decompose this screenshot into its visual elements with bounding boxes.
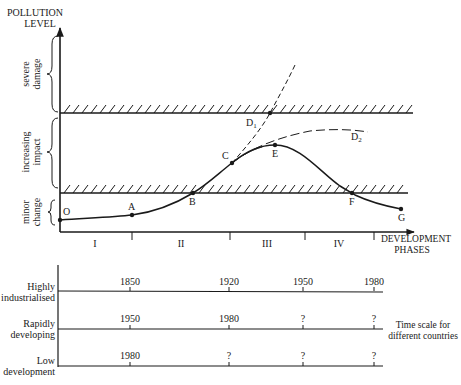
zone-minor-line1: minor bbox=[20, 199, 31, 224]
row-label-low-2: development bbox=[3, 366, 55, 377]
d1-dashed-branch bbox=[232, 65, 295, 163]
point-label-g: G bbox=[398, 212, 405, 223]
year-label: 1980 bbox=[364, 276, 384, 287]
year-label: 1920 bbox=[219, 276, 239, 287]
row-label-highly-2: industrialised bbox=[1, 292, 55, 303]
upper-threshold bbox=[60, 105, 413, 113]
zone-severe-line2: damage bbox=[31, 58, 42, 90]
point-label-a: A bbox=[128, 201, 136, 212]
point-label-f: F bbox=[349, 196, 355, 207]
point-label-c: C bbox=[222, 150, 229, 161]
year-label: 1950 bbox=[120, 313, 140, 324]
x-axis-title-line1: DEVELOPMENT bbox=[381, 234, 451, 244]
point-label-d2: D2 bbox=[351, 131, 362, 144]
lower-threshold bbox=[60, 185, 408, 193]
timescale-caption-line1: Time scale for bbox=[396, 320, 451, 330]
timescale-ticks bbox=[130, 287, 374, 366]
y-axis-title-line1: POLLUTION bbox=[7, 7, 63, 18]
year-label: 1980 bbox=[219, 313, 239, 324]
point-label-b: B bbox=[189, 196, 196, 207]
point-label-o: O bbox=[63, 206, 70, 217]
zone-minor-line2: change bbox=[31, 197, 42, 226]
pollution-curve bbox=[60, 145, 401, 220]
timescale-lines bbox=[58, 291, 383, 366]
year-label: ? bbox=[372, 313, 377, 324]
zone-severe-line1: severe bbox=[20, 61, 31, 87]
phase-label-4: IV bbox=[334, 238, 345, 249]
row-label-rapidly-1: Rapidly bbox=[23, 318, 55, 329]
phase-label-2: II bbox=[178, 238, 185, 249]
year-label: 1850 bbox=[120, 276, 140, 287]
y-axis-title-line2: LEVEL bbox=[24, 18, 56, 29]
zone-braces bbox=[47, 36, 58, 225]
zone-increasing-line2: impact bbox=[31, 138, 42, 165]
row-label-highly-1: Highly bbox=[27, 281, 55, 292]
phase-label-3: III bbox=[262, 238, 272, 249]
point-label-d1: D1 bbox=[246, 117, 257, 130]
c-tangent-line bbox=[232, 147, 262, 163]
point-label-e: E bbox=[272, 148, 278, 159]
year-label: 1980 bbox=[120, 350, 140, 361]
row-label-rapidly-2: developing bbox=[11, 329, 55, 340]
row-label-low-1: Low bbox=[37, 355, 56, 366]
x-axis-title-line2: PHASES bbox=[394, 245, 429, 255]
year-label: ? bbox=[227, 350, 232, 361]
zone-increasing-line1: increasing bbox=[20, 131, 31, 172]
phase-label-1: I bbox=[93, 238, 96, 249]
year-label: ? bbox=[372, 350, 377, 361]
pollution-development-diagram: POLLUTION LEVEL I II III IV DEVELOPMENT … bbox=[0, 0, 461, 385]
year-label: ? bbox=[301, 350, 306, 361]
year-label: 1950 bbox=[293, 276, 313, 287]
year-label: ? bbox=[301, 313, 306, 324]
timescale-caption-line2: different countries bbox=[388, 331, 458, 341]
d2-dashed-branch bbox=[232, 130, 368, 163]
